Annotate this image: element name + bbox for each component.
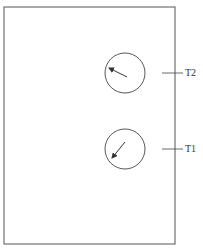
element-t2 (105, 53, 183, 93)
frame-rectangle (4, 7, 175, 244)
element-t1 (105, 129, 183, 169)
t1-circle (105, 129, 145, 169)
t2-circle (105, 53, 145, 93)
t2-arrow-icon (109, 68, 127, 77)
t1-arrow-icon (112, 142, 125, 158)
diagram-canvas (0, 0, 203, 248)
t1-label: T1 (185, 144, 196, 154)
t2-label: T2 (185, 68, 196, 78)
